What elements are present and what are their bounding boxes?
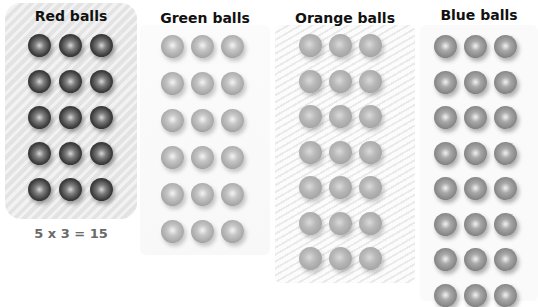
orange-ball	[299, 70, 322, 93]
orange-ball	[299, 34, 322, 57]
multiplication-equation: 5 x 3 = 15	[5, 226, 137, 241]
orange-ball	[359, 70, 382, 93]
green-ball	[221, 220, 244, 243]
orange-ball	[299, 212, 322, 235]
blue-ball	[464, 284, 487, 307]
blue-ball	[464, 248, 487, 271]
blue-ball	[434, 71, 457, 94]
orange-ball	[329, 34, 352, 57]
green-ball	[221, 72, 244, 95]
blue-ball	[464, 35, 487, 58]
green-balls-title: Green balls	[140, 10, 270, 26]
orange-ball	[299, 176, 322, 199]
green-ball	[221, 109, 244, 132]
red-balls-title: Red balls	[5, 8, 137, 24]
orange-ball	[329, 70, 352, 93]
green-ball	[191, 72, 214, 95]
blue-ball	[434, 213, 457, 236]
orange-ball	[329, 176, 352, 199]
green-ball	[161, 72, 184, 95]
red-ball	[90, 178, 113, 201]
blue-ball	[434, 248, 457, 271]
blue-ball	[434, 35, 457, 58]
orange-ball	[329, 105, 352, 128]
blue-ball	[464, 71, 487, 94]
blue-ball	[494, 248, 517, 271]
red-ball	[28, 106, 51, 129]
orange-balls-title: Orange balls	[275, 10, 415, 26]
blue-ball	[494, 142, 517, 165]
orange-ball	[359, 212, 382, 235]
green-ball	[221, 183, 244, 206]
green-ball	[191, 220, 214, 243]
orange-ball	[299, 141, 322, 164]
green-ball	[161, 146, 184, 169]
red-ball	[59, 70, 82, 93]
orange-ball	[329, 141, 352, 164]
green-ball	[191, 109, 214, 132]
blue-ball	[494, 284, 517, 307]
red-ball	[90, 34, 113, 57]
orange-ball	[359, 247, 382, 270]
orange-ball	[359, 176, 382, 199]
blue-ball	[494, 35, 517, 58]
blue-ball	[434, 177, 457, 200]
green-ball	[161, 109, 184, 132]
blue-ball	[434, 106, 457, 129]
green-ball	[161, 220, 184, 243]
orange-ball	[329, 247, 352, 270]
orange-ball	[359, 105, 382, 128]
red-ball	[90, 142, 113, 165]
blue-ball	[494, 71, 517, 94]
red-ball	[90, 70, 113, 93]
green-ball	[161, 35, 184, 58]
green-ball	[191, 183, 214, 206]
red-ball	[59, 106, 82, 129]
blue-balls-title: Blue balls	[420, 7, 538, 23]
orange-ball	[359, 34, 382, 57]
blue-ball	[464, 177, 487, 200]
red-ball	[59, 178, 82, 201]
blue-ball	[494, 106, 517, 129]
blue-ball	[434, 284, 457, 307]
red-ball	[28, 70, 51, 93]
green-ball	[191, 146, 214, 169]
orange-ball	[329, 212, 352, 235]
red-ball	[59, 34, 82, 57]
orange-ball	[359, 141, 382, 164]
green-ball	[221, 146, 244, 169]
red-ball	[28, 34, 51, 57]
green-ball	[161, 183, 184, 206]
orange-ball	[299, 105, 322, 128]
red-ball	[28, 178, 51, 201]
blue-ball	[464, 142, 487, 165]
blue-ball	[434, 142, 457, 165]
blue-ball	[494, 177, 517, 200]
green-ball	[221, 35, 244, 58]
red-ball	[28, 142, 51, 165]
blue-ball	[494, 213, 517, 236]
green-ball	[191, 35, 214, 58]
orange-ball	[299, 247, 322, 270]
red-ball	[90, 106, 113, 129]
blue-ball	[464, 213, 487, 236]
red-ball	[59, 142, 82, 165]
blue-ball	[464, 106, 487, 129]
